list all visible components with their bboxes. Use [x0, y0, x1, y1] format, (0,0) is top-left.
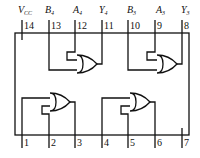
pin-1-number: 1 — [24, 137, 29, 148]
or-gate-1 — [22, 93, 75, 135]
pin-14-number: 14 — [24, 20, 34, 31]
or-gate-3 — [128, 33, 182, 73]
pin-8-number: 8 — [184, 20, 189, 31]
pin-4-number: 4 — [104, 137, 109, 148]
pin-12-number: 12 — [77, 20, 87, 31]
ic-pinout-diagram: VCC B4 A4 Y4 B3 A3 Y3 14 13 12 11 10 9 8… — [0, 0, 200, 158]
pin-5-number: 5 — [130, 137, 135, 148]
pin-14-name: VCC — [18, 4, 33, 16]
pin-6-number: 6 — [157, 137, 162, 148]
pin-10-number: 10 — [130, 20, 140, 31]
or-gate-2 — [102, 93, 155, 135]
pin-3-number: 3 — [77, 137, 82, 148]
pin-8-name: Y3 — [181, 4, 190, 16]
pin-7-number: 7 — [184, 137, 189, 148]
pin-12-name: A4 — [72, 4, 82, 16]
pin-11-name: Y4 — [99, 4, 108, 16]
pin-9-name: A3 — [155, 4, 165, 16]
pin-10-name: B3 — [127, 4, 136, 16]
pin-9-number: 9 — [157, 20, 162, 31]
or-gate-4 — [49, 33, 102, 73]
pin-13-name: B4 — [45, 4, 54, 16]
pin-2-number: 2 — [51, 137, 56, 148]
pin-13-number: 13 — [51, 20, 61, 31]
pin-11-number: 11 — [104, 20, 114, 31]
